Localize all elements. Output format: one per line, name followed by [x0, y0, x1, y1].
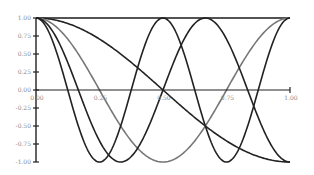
- y-tick-label: 0.00: [18, 86, 32, 93]
- y-tick-label: 0.50: [18, 50, 32, 57]
- y-tick-label: -0.50: [16, 122, 32, 129]
- axes: [33, 18, 290, 162]
- y-tick-label: 1.00: [18, 14, 32, 21]
- x-tick-label: 0.25: [94, 94, 108, 101]
- y-tick-label: -1.00: [16, 158, 32, 165]
- y-tick-label: 0.75: [18, 32, 32, 39]
- y-tick-label: -0.25: [16, 104, 32, 111]
- chart: 1.000.750.500.250.00-0.25-0.50-0.75-1.00…: [0, 0, 314, 175]
- y-tick-label: -0.75: [16, 140, 32, 147]
- x-tick-label: 0.75: [221, 94, 235, 101]
- y-tick-label: 0.25: [18, 68, 32, 75]
- x-tick-label: 1.00: [284, 94, 298, 101]
- x-tick-label: 0.50: [157, 94, 171, 101]
- x-tick-label: 0.00: [30, 94, 44, 101]
